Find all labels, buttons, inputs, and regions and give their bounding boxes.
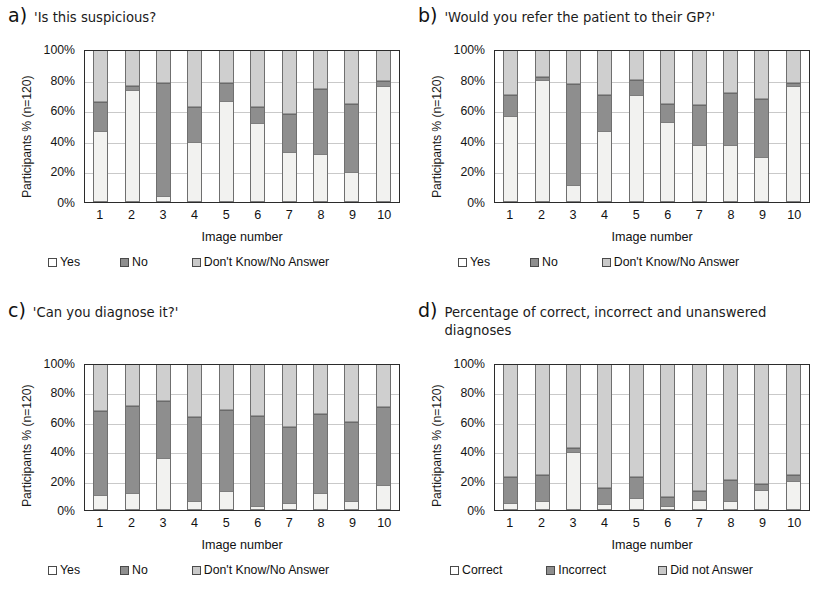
bar-segment [94, 51, 107, 102]
bar-segment [724, 365, 737, 480]
figure-panel-grid: a) 'Is this suspicious? Participants % (… [0, 0, 819, 589]
bar-group [368, 365, 399, 510]
y-tick: 20% [50, 165, 75, 179]
legend-label: Don't Know/No Answer [204, 256, 329, 268]
stacked-bar [187, 51, 202, 202]
bar-segment [157, 401, 170, 458]
legend-label: Don't Know/No Answer [614, 256, 739, 268]
x-tick: 1 [84, 516, 116, 530]
x-tick: 3 [557, 516, 589, 530]
panel-b-x-axis-label: Image number [494, 230, 810, 244]
bar-segment [724, 501, 737, 510]
bar-segment [504, 95, 517, 116]
panel-c-x-axis-label: Image number [84, 538, 400, 552]
stacked-bar [535, 365, 550, 510]
bar-group [179, 51, 210, 202]
bar-segment [377, 407, 390, 485]
bar-segment [755, 490, 768, 510]
x-tick: 10 [368, 208, 400, 222]
bar-segment [157, 83, 170, 196]
x-tick: 2 [116, 516, 148, 530]
bar-segment [283, 152, 296, 202]
legend-swatch-icon [192, 566, 201, 575]
bar-segment [693, 51, 706, 105]
x-tick: 3 [147, 516, 179, 530]
y-tick: 0% [57, 196, 75, 210]
bar-segment [345, 172, 358, 202]
bar-group [211, 51, 242, 202]
panel-a-plot-area [84, 50, 400, 203]
x-tick: 8 [305, 516, 337, 530]
panel-a-x-ticks: 12345678910 [84, 208, 400, 222]
y-tick: 100% [454, 43, 485, 57]
legend-item: Don't Know/No Answer [602, 256, 739, 268]
bar-segment [220, 83, 233, 101]
bar-segment [188, 501, 201, 510]
bar-segment [567, 51, 580, 84]
x-tick: 5 [210, 208, 242, 222]
legend-label: Yes [60, 564, 80, 576]
bar-segment [314, 154, 327, 202]
panel-a: a) 'Is this suspicious? Participants % (… [0, 0, 410, 295]
legend-label: No [132, 564, 148, 576]
y-tick: 100% [454, 357, 485, 371]
bar-segment [126, 493, 139, 510]
bar-segment [345, 422, 358, 502]
panel-c-bars [85, 365, 399, 510]
bar-group [336, 51, 367, 202]
bar-segment [755, 157, 768, 202]
y-tick: 40% [50, 135, 75, 149]
y-tick: 20% [460, 165, 485, 179]
x-tick: 1 [494, 516, 526, 530]
panel-d-plot-area [494, 364, 810, 511]
y-tick: 0% [467, 504, 485, 518]
y-tick: 100% [44, 43, 75, 57]
bar-segment [504, 51, 517, 95]
legend-item: Did not Answer [658, 564, 753, 576]
bar-group [778, 365, 809, 510]
bar-segment [755, 99, 768, 156]
bar-segment [661, 122, 674, 202]
bar-segment [314, 51, 327, 89]
legend-label: Yes [60, 256, 80, 268]
x-tick: 2 [526, 208, 558, 222]
bar-segment [220, 51, 233, 83]
bar-group [683, 365, 714, 510]
stacked-bar [93, 51, 108, 202]
bar-group [336, 365, 367, 510]
bar-group [621, 51, 652, 202]
x-tick: 6 [242, 208, 274, 222]
stacked-bar [250, 365, 265, 510]
bar-segment [314, 89, 327, 154]
bar-group [148, 51, 179, 202]
x-tick: 9 [747, 208, 779, 222]
y-tick: 0% [57, 504, 75, 518]
bar-segment [630, 95, 643, 202]
x-tick: 9 [337, 208, 369, 222]
bar-segment [157, 196, 170, 202]
stacked-bar [156, 51, 171, 202]
bar-group [273, 365, 304, 510]
bar-segment [283, 427, 296, 502]
bar-segment [188, 51, 201, 107]
bar-segment [345, 104, 358, 172]
x-tick: 10 [778, 516, 810, 530]
panel-b-legend: YesNoDon't Know/No Answer [458, 256, 808, 268]
bar-segment [755, 365, 768, 484]
bar-segment [345, 501, 358, 510]
bar-segment [94, 365, 107, 411]
x-tick: 3 [147, 208, 179, 222]
stacked-bar [597, 51, 612, 202]
x-tick: 4 [589, 516, 621, 530]
panel-c-x-ticks: 12345678910 [84, 516, 400, 530]
bar-segment [283, 114, 296, 152]
bar-segment [377, 51, 390, 81]
bar-segment [504, 503, 517, 510]
y-tick: 60% [460, 104, 485, 118]
y-tick: 20% [460, 475, 485, 489]
stacked-bar [503, 365, 518, 510]
stacked-bar [566, 51, 581, 202]
stacked-bar [93, 365, 108, 510]
y-tick: 0% [467, 196, 485, 210]
legend-item: No [120, 564, 148, 576]
